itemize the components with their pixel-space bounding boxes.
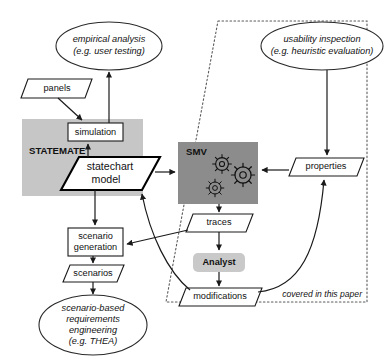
simulation-label: simulation — [75, 127, 116, 137]
analyst-label: Analyst — [202, 257, 235, 267]
smv-label: SMV — [186, 146, 207, 157]
usability-inspection-label-line1: usability inspection — [283, 34, 360, 44]
modifications-label: modifications — [193, 291, 247, 301]
edge-traces-to-scenario-generation — [127, 230, 188, 244]
scenario-generation-label-line1: scenario — [78, 231, 113, 241]
sbre-label-line3: engineering — [69, 325, 118, 335]
process-diagram: empirical analysis (e.g. user testing) u… — [0, 0, 386, 361]
sbre-label-line1: scenario-based — [62, 303, 126, 313]
usability-inspection-label-line2: (e.g. heuristic evaluation) — [271, 46, 374, 56]
panels-label: panels — [43, 83, 70, 93]
statechart-model-label-line1: statechart — [87, 160, 134, 172]
traces-label: traces — [206, 217, 231, 227]
edge-modifications-to-statechart — [142, 194, 190, 290]
edge-panels-to-simulation — [58, 98, 82, 120]
sbre-label-line2: requirements — [66, 314, 120, 324]
properties-label: properties — [306, 161, 347, 171]
scenarios-label: scenarios — [73, 268, 113, 278]
diagram-canvas: empirical analysis (e.g. user testing) u… — [0, 0, 386, 361]
sbre-label-line4: (e.g. THEA) — [69, 336, 118, 346]
covered-in-this-paper-caption: covered in this paper — [282, 289, 363, 299]
statechart-model-label-line2: model — [92, 173, 121, 185]
scenario-generation-label-line2: generation — [74, 242, 117, 252]
empirical-analysis-label-line1: empirical analysis — [73, 34, 146, 44]
empirical-analysis-label-line2: (e.g. user testing) — [73, 46, 145, 56]
edge-modifications-to-properties — [258, 180, 324, 292]
statemate-group-label: STATEMATE — [29, 145, 86, 156]
